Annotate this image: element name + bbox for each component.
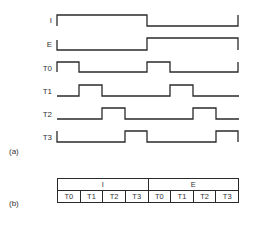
state-table: I E T0 T1 T2 T3 T0 T1 T2 T3 <box>57 178 239 203</box>
signal-label-t0: T0 <box>32 64 52 73</box>
signal-label-t1: T1 <box>32 87 52 96</box>
state-cell: T1 <box>171 191 194 203</box>
phase-row: I E <box>58 179 239 191</box>
signal-label-t2: T2 <box>32 110 52 119</box>
signal-label-t3: T3 <box>32 133 52 142</box>
waveform-t0 <box>57 62 238 72</box>
waveform-t2 <box>57 108 239 119</box>
waveform-i <box>57 15 238 26</box>
state-cell: T1 <box>80 191 103 203</box>
part-a-label: (a) <box>9 147 19 156</box>
signal-label-e: E <box>32 40 52 49</box>
state-cell: T0 <box>148 191 171 203</box>
waveform-e <box>57 38 238 50</box>
waveform-t1 <box>57 85 239 96</box>
state-row: T0 T1 T2 T3 T0 T1 T2 T3 <box>58 191 239 203</box>
state-cell: T2 <box>103 191 126 203</box>
phase-cell-i: I <box>58 179 149 191</box>
state-cell: T3 <box>125 191 148 203</box>
state-cell: T3 <box>216 191 239 203</box>
state-cell: T2 <box>193 191 216 203</box>
phase-cell-e: E <box>148 179 239 191</box>
part-b-label: (b) <box>9 199 19 208</box>
signal-label-i: I <box>32 16 52 25</box>
waveform-t3 <box>57 131 238 142</box>
state-cell: T0 <box>58 191 81 203</box>
